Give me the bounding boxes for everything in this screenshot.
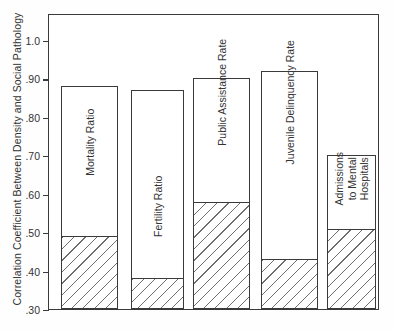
y-axis-tick-mark <box>43 272 49 273</box>
bar-label: Admissions to Mental Hospitals <box>333 152 371 206</box>
bar-label: Juvenile Delinquency Rate <box>283 40 296 164</box>
bar-hatched-segment <box>327 229 376 310</box>
bar-hatched-segment <box>261 259 318 309</box>
y-axis-tick-label: .50 <box>25 227 40 239</box>
y-axis-tick-label: .70 <box>25 150 40 162</box>
y-axis-tick-mark <box>43 310 49 311</box>
y-axis-title: Correlation Coefficient Between Density … <box>11 9 23 309</box>
y-axis-tick-mark <box>43 79 49 80</box>
bar[interactable]: Mortality Ratio <box>61 86 118 309</box>
plot-frame: 1.0.90.80.70.60.50.40.30 Mortality Ratio… <box>48 14 379 310</box>
bar[interactable]: Admissions to Mental Hospitals <box>327 155 376 309</box>
correlation-bar-chart: Correlation Coefficient Between Density … <box>0 0 394 330</box>
y-axis-tick-mark <box>43 195 49 196</box>
bar-label: Mortality Ratio <box>83 109 96 176</box>
y-axis-tick-label: .90 <box>25 73 40 85</box>
y-axis-tick-mark <box>43 156 49 157</box>
y-axis-tick-label: .30 <box>25 304 40 316</box>
y-axis-tick-mark <box>43 233 49 234</box>
bar-label: Public Assistance Rate <box>215 39 228 146</box>
bar-hatched-segment <box>193 202 250 310</box>
y-axis-tick-label: .40 <box>25 266 40 278</box>
y-axis-tick-label: .80 <box>25 112 40 124</box>
bar-label: Fertility Ratio <box>151 176 164 237</box>
bar-hatched-segment <box>61 236 118 309</box>
y-axis-tick-mark <box>43 41 49 42</box>
y-axis-tick-label: .60 <box>25 189 40 201</box>
bar[interactable]: Public Assistance Rate <box>193 78 250 309</box>
y-axis-tick-label: 1.0 <box>25 35 40 47</box>
bar[interactable]: Fertility Ratio <box>131 90 184 309</box>
bar[interactable]: Juvenile Delinquency Rate <box>261 71 318 309</box>
y-axis-tick-mark <box>43 118 49 119</box>
bar-hatched-segment <box>131 278 184 309</box>
